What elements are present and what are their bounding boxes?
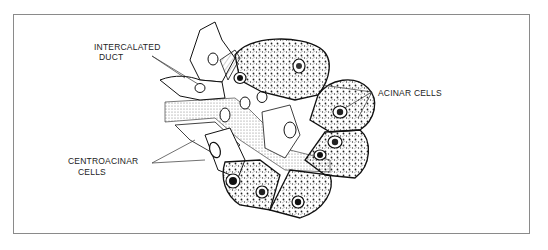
label-intercalated-duct-line1: INTERCALATED: [94, 42, 160, 52]
label-acinar-cells: ACINAR CELLS: [378, 88, 442, 98]
label-centroacinar-line2: CELLS: [78, 167, 106, 177]
acinus-illustration: [0, 0, 548, 250]
label-intercalated-duct-line2: DUCT: [99, 52, 123, 62]
label-centroacinar-line1: CENTROACINAR: [68, 156, 138, 166]
